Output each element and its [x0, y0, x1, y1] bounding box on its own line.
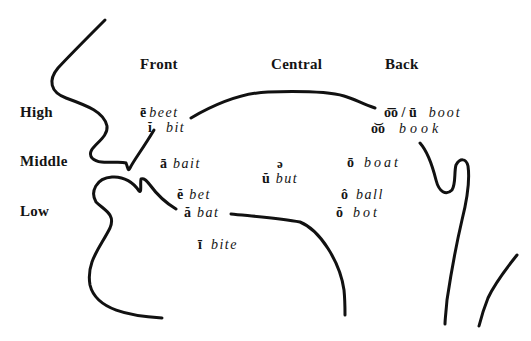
column-header-back: Back [385, 57, 419, 72]
vowel-entry-book: o͝obook [371, 120, 442, 136]
column-header-central: Central [271, 57, 322, 72]
vowel-entry-bait: ābait [160, 155, 201, 171]
vowel-entry-bet: ĕbet [177, 186, 211, 202]
example-word: bot [353, 205, 380, 220]
vowel-symbol-schwa: ə [277, 157, 283, 170]
vowel-symbol: o͞o / ū [384, 105, 417, 120]
vowel-symbol: o͝o [371, 121, 385, 136]
vowel-entry-but: ŭbut [262, 170, 298, 186]
vowel-symbol: ô [341, 187, 348, 202]
example-word: bite [211, 237, 238, 252]
example-word: boot [429, 105, 462, 120]
example-word: bait [173, 156, 201, 171]
example-word: bit [166, 120, 185, 135]
vowel-entry-ball: ôball [341, 186, 384, 202]
vowel-entry-bot: ŏbot [336, 204, 380, 220]
example-word: but [276, 171, 298, 186]
row-label-middle: Middle [20, 154, 68, 169]
velum-uvula-outline [420, 143, 469, 324]
vowel-symbol: ā [160, 156, 167, 171]
vowel-symbol: ē [140, 105, 146, 120]
vowel-symbol: ŏ [336, 205, 343, 220]
vowel-chart-diagram: Front Central Back High Middle Low ēbeet… [0, 0, 531, 341]
vowel-symbol: ō [347, 155, 354, 170]
vowel-symbol: ŭ [262, 171, 270, 186]
row-label-low: Low [20, 204, 49, 219]
vowel-entry-bit: ĭbit [148, 119, 185, 135]
example-word: ball [356, 187, 384, 202]
tongue-outline [231, 214, 345, 315]
vowel-entry-boat: ōboat [347, 154, 401, 170]
example-word: beet [149, 105, 178, 120]
column-header-front: Front [140, 57, 178, 72]
example-word: bet [189, 187, 211, 202]
vowel-symbol: ĭ [148, 120, 152, 135]
palate-outline [191, 92, 375, 118]
vowel-entry-bite: ībite [198, 236, 238, 252]
pharynx-wall-outline [479, 255, 517, 326]
example-word: boat [364, 155, 401, 170]
row-label-high: High [20, 105, 53, 120]
vowel-entry-boot: o͞o / ūboot [384, 104, 462, 120]
lower-lip-chin-outline [89, 177, 176, 318]
example-word: bat [197, 205, 219, 220]
vowel-symbol: ă [184, 205, 191, 220]
vowel-symbol: ī [198, 237, 202, 252]
example-word: book [399, 121, 442, 136]
vowel-symbol: ĕ [177, 187, 183, 202]
vowel-entry-beet: ēbeet [140, 104, 179, 120]
nose-upper-lip-outline [52, 20, 154, 170]
vowel-entry-bat: ăbat [184, 204, 219, 220]
